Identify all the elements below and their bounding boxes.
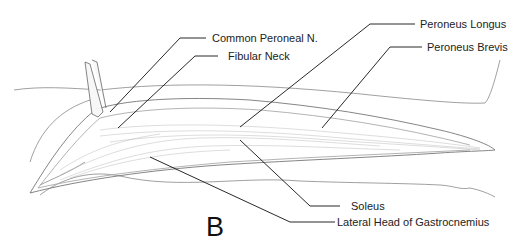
label-peroneus-longus: Peroneus Longus (420, 19, 506, 30)
label-lateral-head-gastrocnemius: Lateral Head of Gastrocnemius (337, 217, 489, 228)
label-fibular-neck: Fibular Neck (228, 51, 290, 62)
label-common-peroneal-nerve: Common Peroneal N. (212, 33, 318, 44)
label-soleus: Soleus (351, 201, 385, 212)
leg-outline (14, 60, 500, 197)
panel-letter: B (206, 214, 224, 241)
retractor (85, 60, 106, 117)
label-peroneus-brevis: Peroneus Brevis (427, 42, 508, 53)
